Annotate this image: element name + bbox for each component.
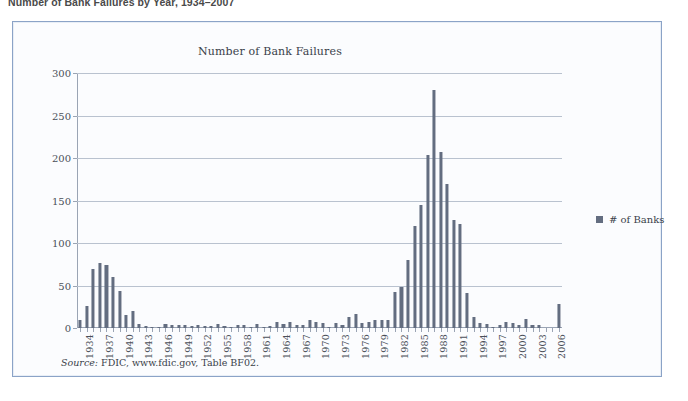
x-axis-tick-mark xyxy=(546,328,547,332)
x-axis-tick-mark xyxy=(316,328,317,332)
bar-slot xyxy=(418,73,425,328)
x-axis-tick-mark xyxy=(526,328,527,332)
x-axis-tick-mark xyxy=(185,328,186,332)
bar xyxy=(92,269,95,328)
figure-panel: Number of Bank Failures 0501001502002503… xyxy=(12,21,662,377)
bar-slot xyxy=(90,73,97,328)
bar xyxy=(111,277,114,328)
x-axis-tick-mark xyxy=(441,328,442,332)
y-axis-tick-label: 300 xyxy=(52,68,71,79)
x-axis-tick-mark xyxy=(375,328,376,332)
x-axis-tick-label: 1988 xyxy=(438,334,449,359)
x-axis-tick-label: 1991 xyxy=(458,334,469,359)
bar xyxy=(406,260,409,328)
bar-slot xyxy=(202,73,209,328)
bar-slot xyxy=(542,73,549,328)
bar xyxy=(446,184,449,328)
x-axis-tick-label: 1949 xyxy=(183,334,194,359)
x-axis-tick-mark xyxy=(421,328,422,332)
x-axis-tick-mark xyxy=(270,328,271,332)
x-axis-tick-mark xyxy=(474,328,475,332)
x-axis-tick-mark xyxy=(428,328,429,332)
bar-slot xyxy=(287,73,294,328)
bar-slot xyxy=(143,73,150,328)
bar-slot xyxy=(444,73,451,328)
x-axis-tick-mark xyxy=(493,328,494,332)
x-axis-tick-mark xyxy=(362,328,363,332)
x-axis-tick-mark xyxy=(487,328,488,332)
source-note-label: Source: xyxy=(61,357,98,368)
x-axis-tick-mark xyxy=(87,328,88,332)
bar-slot xyxy=(405,73,412,328)
y-axis-tick-label: 0 xyxy=(65,323,71,334)
bar-slot xyxy=(103,73,110,328)
x-axis-tick-label: 1958 xyxy=(242,334,253,359)
x-axis-tick-mark xyxy=(408,328,409,332)
x-axis-tick-mark xyxy=(297,328,298,332)
x-axis-tick-label: 1997 xyxy=(497,334,508,359)
x-axis-tick-mark xyxy=(552,328,553,332)
x-axis-tick-mark xyxy=(454,328,455,332)
y-axis-tick-label: 100 xyxy=(52,238,71,249)
x-axis-tick-mark xyxy=(539,328,540,332)
bar-slot xyxy=(228,73,235,328)
x-axis-tick-mark xyxy=(224,328,225,332)
bar xyxy=(472,317,475,328)
x-axis-tick-mark xyxy=(559,328,560,332)
x-axis-tick-mark xyxy=(198,328,199,332)
x-axis-tick-mark xyxy=(251,328,252,332)
x-axis-tick-label: 1979 xyxy=(379,334,390,359)
bar-series xyxy=(77,73,562,328)
bar-slot xyxy=(300,73,307,328)
x-axis-tick-mark xyxy=(415,328,416,332)
x-axis-tick-mark xyxy=(218,328,219,332)
bar-slot xyxy=(555,73,562,328)
x-axis-tick-mark xyxy=(172,328,173,332)
bar xyxy=(439,152,442,328)
x-axis-tick-mark xyxy=(283,328,284,332)
x-axis-tick-label: 1946 xyxy=(163,334,174,359)
legend-label: # of Banks xyxy=(609,214,664,225)
x-axis-tick-mark xyxy=(310,328,311,332)
x-axis-tick-mark xyxy=(146,328,147,332)
bar-slot xyxy=(261,73,268,328)
x-axis-tick-label: 1964 xyxy=(281,334,292,359)
bar xyxy=(393,292,396,328)
x-axis-tick-mark xyxy=(434,328,435,332)
legend-swatch-icon xyxy=(596,216,603,223)
x-axis-tick-mark xyxy=(388,328,389,332)
x-axis-tick-mark xyxy=(323,328,324,332)
bar xyxy=(420,205,423,328)
x-axis-tick-mark xyxy=(133,328,134,332)
x-axis-tick-mark xyxy=(120,328,121,332)
bar xyxy=(557,304,560,328)
x-axis-tick-label: 1982 xyxy=(399,334,410,359)
bar-slot xyxy=(247,73,254,328)
bar-slot xyxy=(516,73,523,328)
x-axis-tick-mark xyxy=(356,328,357,332)
x-axis-tick-label: 1943 xyxy=(143,334,154,359)
y-axis-tick-label: 200 xyxy=(52,153,71,164)
bar-slot xyxy=(274,73,281,328)
bar-slot xyxy=(175,73,182,328)
x-axis-tick-mark xyxy=(513,328,514,332)
bar-slot xyxy=(333,73,340,328)
bar xyxy=(105,265,108,328)
y-axis-tick-label: 50 xyxy=(58,280,71,291)
bar-slot xyxy=(431,73,438,328)
chart-legend: # of Banks xyxy=(596,214,664,225)
bar xyxy=(118,291,121,328)
x-axis-tick-mark xyxy=(460,328,461,332)
bar-slot xyxy=(162,73,169,328)
bar-slot xyxy=(503,73,510,328)
x-axis-tick-label: 2006 xyxy=(556,334,567,359)
x-axis-tick-mark xyxy=(382,328,383,332)
bar xyxy=(433,90,436,328)
x-axis-tick-mark xyxy=(244,328,245,332)
bar-slot xyxy=(490,73,497,328)
bar-slot xyxy=(313,73,320,328)
x-axis-tick-mark xyxy=(139,328,140,332)
x-axis-tick-mark xyxy=(519,328,520,332)
x-axis-tick-mark xyxy=(290,328,291,332)
bar xyxy=(426,155,429,328)
